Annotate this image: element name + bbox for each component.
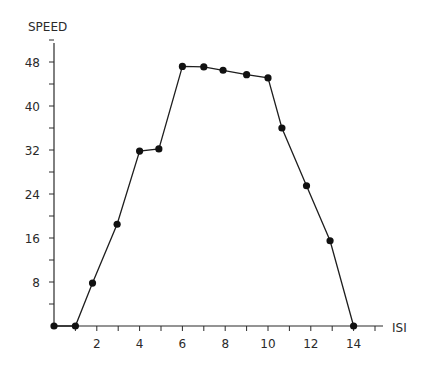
y-tick-label: 48: [25, 56, 40, 70]
data-series: [50, 63, 357, 330]
x-tick-label: 14: [346, 337, 361, 351]
y-tick-label: 40: [25, 100, 40, 114]
x-tick-label: 2: [93, 337, 101, 351]
y-tick-label: 32: [25, 144, 40, 158]
speed-vs-isi-chart: SPEED ISI 816243240482468101214: [0, 0, 430, 371]
data-point: [89, 280, 96, 287]
y-tick-label: 24: [25, 188, 40, 202]
x-axis-title: ISI: [392, 321, 407, 335]
data-point: [114, 221, 121, 228]
x-tick-label: 6: [179, 337, 187, 351]
data-point: [155, 145, 162, 152]
data-point: [243, 71, 250, 78]
data-point: [264, 74, 271, 81]
x-tick-label: 10: [260, 337, 275, 351]
data-point: [179, 63, 186, 70]
data-point: [326, 237, 333, 244]
data-point: [350, 322, 357, 329]
data-point: [200, 63, 207, 70]
x-tick-label: 8: [221, 337, 229, 351]
y-axis-title: SPEED: [28, 20, 67, 34]
x-tick-label: 4: [136, 337, 144, 351]
axes: [49, 40, 383, 331]
data-point: [72, 322, 79, 329]
data-point: [219, 67, 226, 74]
series-line: [54, 66, 354, 326]
data-point: [278, 124, 285, 131]
data-point: [303, 182, 310, 189]
y-tick-label: 8: [32, 276, 40, 290]
data-point: [50, 322, 57, 329]
y-tick-label: 16: [25, 232, 40, 246]
tick-labels: 816243240482468101214: [25, 56, 362, 351]
data-point: [136, 148, 143, 155]
x-tick-label: 12: [303, 337, 318, 351]
